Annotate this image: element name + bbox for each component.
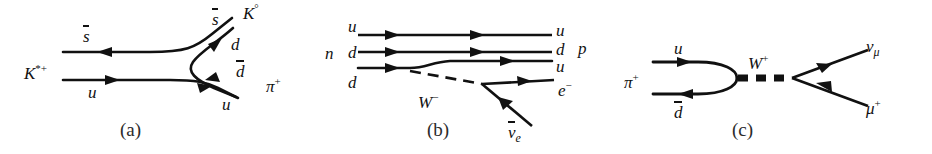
label-up-quark-c: u [674,40,683,57]
quark-line-antidown-c [653,78,737,94]
label-electron: e− [558,80,572,99]
label-up-out: u [222,96,231,113]
caption-b: (b) [427,120,449,139]
diagram-panel-a: K*+ s u s K° d d u π+ (a) [0,0,310,154]
arrowhead-down-a [208,38,222,52]
label-muon-plus: μ+ [866,98,881,117]
arrowhead-up-c [677,57,692,67]
label-w-minus: W− [418,92,438,111]
boson-line-w-minus-b [410,71,482,84]
label-quark-out-u2: u [556,58,565,75]
diagram-c-lines [620,0,932,154]
arrowhead-d-mid-b1 [385,47,400,57]
arrowhead-up-a [105,75,120,85]
diagram-panel-c: π+ u d W+ νμ μ+ (c) [620,0,932,154]
label-antineutrino: νe [508,124,521,144]
arrowhead-electron-b [517,76,532,86]
caption-a: (a) [120,120,141,139]
label-down-out: d [231,36,240,53]
label-up-in: u [88,84,97,101]
arrowhead-d-mid-b2 [470,47,485,57]
label-neutron: n [325,45,334,62]
caption-c: (c) [732,120,753,139]
physics-figure: K*+ s u s K° d d u π+ (a) [0,0,932,154]
quark-pair-dd-a [191,28,236,97]
label-antistrange-out: s [212,11,219,28]
label-quark-in-u: u [348,18,357,35]
diagram-panel-b: n u d d u d u p W− e− νe [300,0,630,154]
label-kaon-zero: K° [243,3,259,22]
label-neutrino-mu: νμ [866,38,880,58]
label-antistrange-in: s [83,28,90,45]
arrowhead-d-bot-b1 [385,63,400,73]
arrowhead-u-top-b1 [385,30,400,40]
arrowhead-antistrange-a [97,47,112,57]
label-quark-out-d: d [556,41,565,58]
arrowhead-antidown-a [205,72,220,82]
arrowhead-u-top-b2 [470,30,485,40]
label-proton: p [578,40,587,57]
label-pion-plus-c: π+ [624,72,639,91]
label-kstar-plus: K*+ [24,63,47,82]
label-pion-plus-a: π+ [266,76,281,95]
quark-line-up-c [653,62,737,78]
arrowhead-u-bot-b2 [500,56,515,66]
label-antidown-quark-c: d [674,104,683,121]
label-quark-out-u1: u [556,22,565,39]
label-quark-in-d1: d [348,44,357,61]
label-w-plus: W+ [748,53,768,72]
arrowhead-antidown-c [678,89,693,99]
label-quark-in-d2: d [348,74,357,91]
label-antidown-out: d [236,63,245,80]
